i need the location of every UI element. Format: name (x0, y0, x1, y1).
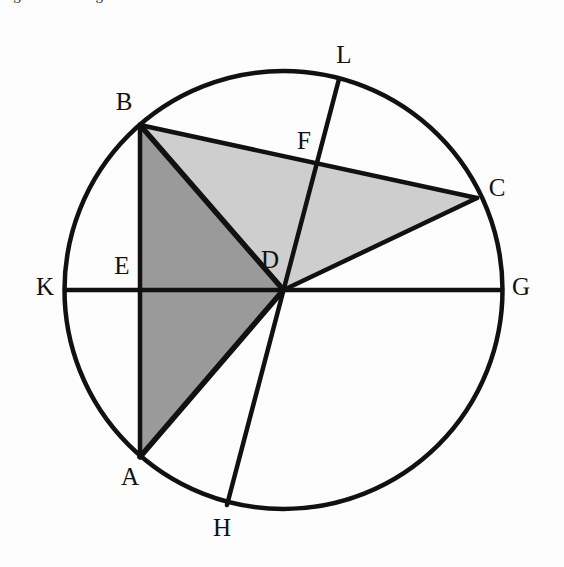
chord-segments (65, 79, 502, 505)
point-label-h: H (213, 514, 231, 541)
figure-canvas: Figure 2. Triangle areas in a circle ABC… (0, 0, 564, 567)
point-label-f: F (297, 127, 311, 154)
point-label-a: A (121, 463, 139, 490)
point-label-g: G (512, 273, 530, 300)
point-label-b: B (116, 88, 133, 115)
circle-geometry-diagram: ABCDEFGHKL (0, 0, 564, 567)
point-label-c: C (489, 174, 506, 201)
point-label-k: K (36, 273, 54, 300)
point-label-d: D (261, 246, 279, 273)
point-label-e: E (114, 252, 129, 279)
point-label-l: L (336, 41, 351, 68)
